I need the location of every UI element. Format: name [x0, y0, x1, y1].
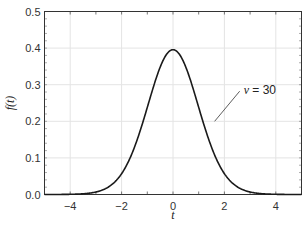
annotation-value: = 30	[249, 83, 276, 97]
annotations: ν = 30	[215, 83, 277, 121]
t-distribution-chart: −4−2024 0.00.10.20.30.40.5 ν = 30 t f(t)	[0, 0, 306, 228]
grid-lines	[45, 12, 302, 195]
x-tick-label: −2	[115, 200, 128, 212]
x-tick-label: 2	[221, 200, 227, 212]
y-tick-label: 0.3	[25, 79, 40, 91]
x-tick-label: 4	[273, 200, 279, 212]
y-tick-label: 0.2	[25, 115, 40, 127]
y-tick-label: 0.1	[25, 152, 40, 164]
x-tick-label: −4	[64, 200, 77, 212]
y-tick-label: 0.5	[25, 6, 40, 18]
y-axis-label: f(t)	[3, 96, 17, 111]
annotation-leader-line	[215, 91, 240, 121]
y-tick-label: 0.4	[25, 42, 40, 54]
y-axis-ticks: 0.00.10.20.30.40.5	[25, 6, 40, 201]
annotation-label: ν = 30	[244, 83, 277, 97]
y-tick-label: 0.0	[25, 189, 40, 201]
